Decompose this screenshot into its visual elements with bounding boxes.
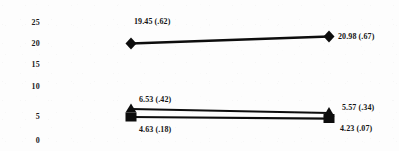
square-marker-right [324,114,335,123]
diamond-marker-right [324,31,335,43]
data-label-triangle-right: 5.57 (.34) [342,103,374,112]
diamond-marker-left [126,38,137,50]
diamond-series-line [131,37,329,44]
square-marker-left [126,113,137,122]
data-label-triangle-left: 6.53 (.42) [139,95,171,104]
line-chart: 25 20 15 10 5 0 19.45 (.62) 20.98 (.67) … [0,0,399,151]
square-series-line [131,117,329,119]
data-label-square-right: 4.23 (.07) [340,124,372,133]
data-label-diamond-right: 20.98 (.67) [338,32,374,41]
triangle-series-line [131,109,329,113]
data-label-square-left: 4.63 (.18) [139,125,171,134]
data-label-diamond-left: 19.45 (.62) [134,17,170,26]
